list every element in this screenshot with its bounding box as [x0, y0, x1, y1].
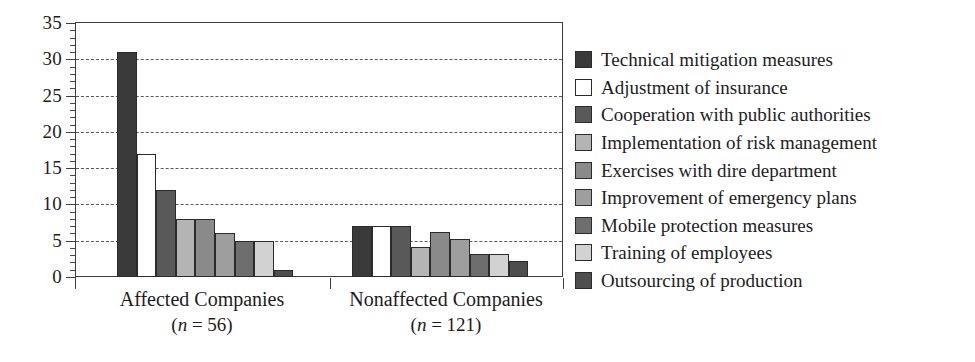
- y-tick-minor-26: [70, 88, 75, 89]
- legend-label: Mobile protection measures: [601, 216, 813, 235]
- y-tick-minor-11: [70, 197, 75, 198]
- y-tick-minor-12: [70, 190, 75, 191]
- y-tick-major-5: [66, 241, 75, 242]
- bars-layer: [76, 23, 562, 277]
- x-axis-label-text: Affected Companies: [120, 288, 285, 310]
- y-tick-minor-17: [70, 154, 75, 155]
- legend-label: Outsourcing of production: [601, 271, 803, 290]
- legend-item: Outsourcing of production: [575, 267, 970, 295]
- y-tick-minor-4: [70, 248, 75, 249]
- legend-item: Training of employees: [575, 239, 970, 267]
- legend-swatch-icon: [575, 272, 592, 289]
- y-tick-minor-18: [70, 146, 75, 147]
- legend-swatch-icon: [575, 244, 592, 261]
- y-tick-minor-28: [70, 74, 75, 75]
- bar-0-3: [176, 219, 196, 277]
- legend-swatch-icon: [575, 217, 592, 234]
- bar-0-8: [274, 270, 294, 277]
- y-tick-label-35: 35: [43, 13, 62, 32]
- y-tick-label-5: 5: [52, 231, 62, 250]
- y-tick-minor-32: [70, 45, 75, 46]
- y-tick-major-15: [66, 168, 75, 169]
- y-tick-minor-22: [70, 117, 75, 118]
- y-tick-label-0: 0: [52, 267, 62, 286]
- y-tick-minor-31: [70, 52, 75, 53]
- x-axis-label-text: Nonaffected Companies: [349, 288, 542, 310]
- y-tick-label-30: 30: [43, 49, 62, 68]
- bar-0-0: [117, 52, 137, 277]
- y-tick-minor-21: [70, 125, 75, 126]
- legend-label: Implementation of risk management: [601, 133, 877, 152]
- legend-item: Technical mitigation measures: [575, 46, 970, 74]
- legend-item: Cooperation with public authorities: [575, 101, 970, 129]
- y-tick-major-25: [66, 96, 75, 97]
- y-tick-label-15: 15: [43, 158, 62, 177]
- bar-1-1: [372, 226, 392, 277]
- y-tick-minor-19: [70, 139, 75, 140]
- legend-label: Technical mitigation measures: [601, 50, 833, 69]
- y-tick-major-35: [66, 23, 75, 24]
- y-tick-minor-23: [70, 110, 75, 111]
- legend-swatch-icon: [575, 51, 592, 68]
- bar-1-3: [411, 247, 431, 277]
- y-tick-minor-2: [70, 262, 75, 263]
- y-tick-minor-24: [70, 103, 75, 104]
- legend-swatch-icon: [575, 79, 592, 96]
- legend-label: Cooperation with public authorities: [601, 105, 871, 124]
- y-tick-minor-9: [70, 212, 75, 213]
- bar-0-5: [215, 233, 235, 277]
- x-axis-label-nonaffected: Nonaffected Companies(n = 121): [316, 286, 576, 338]
- bar-0-7: [254, 241, 274, 277]
- y-tick-minor-3: [70, 255, 75, 256]
- legend-item: Mobile protection measures: [575, 212, 970, 240]
- y-tick-minor-14: [70, 175, 75, 176]
- y-tick-label-25: 25: [43, 86, 62, 105]
- bar-1-2: [391, 226, 411, 277]
- bar-0-1: [137, 154, 157, 277]
- bar-1-5: [450, 239, 470, 277]
- y-tick-minor-33: [70, 38, 75, 39]
- legend-item: Adjustment of insurance: [575, 74, 970, 102]
- legend-label: Improvement of emergency plans: [601, 188, 857, 207]
- y-tick-minor-13: [70, 183, 75, 184]
- chart-figure: 05101520253035 Affected Companies(n = 56…: [0, 0, 975, 362]
- x-axis-label-affected: Affected Companies(n = 56): [72, 286, 332, 338]
- y-tick-minor-29: [70, 67, 75, 68]
- legend-item: Implementation of risk management: [575, 129, 970, 157]
- legend-swatch-icon: [575, 134, 592, 151]
- y-tick-minor-1: [70, 270, 75, 271]
- y-tick-minor-27: [70, 81, 75, 82]
- legend: Technical mitigation measuresAdjustment …: [575, 46, 970, 294]
- legend-label: Training of employees: [601, 243, 772, 262]
- y-tick-label-10: 10: [43, 194, 62, 213]
- y-tick-minor-34: [70, 30, 75, 31]
- bar-1-0: [352, 226, 372, 277]
- bar-0-4: [195, 219, 215, 277]
- bar-1-4: [430, 232, 450, 277]
- y-tick-minor-6: [70, 233, 75, 234]
- y-tick-major-30: [66, 59, 75, 60]
- legend-swatch-icon: [575, 106, 592, 123]
- y-tick-major-20: [66, 132, 75, 133]
- legend-item: Exercises with dire department: [575, 156, 970, 184]
- x-axis-sublabel-text: (n = 121): [316, 312, 576, 338]
- bar-1-8: [509, 261, 529, 277]
- y-tick-minor-7: [70, 226, 75, 227]
- y-tick-major-0: [66, 277, 75, 278]
- legend-swatch-icon: [575, 189, 592, 206]
- bar-0-2: [156, 190, 176, 277]
- x-axis-sublabel-text: (n = 56): [72, 312, 332, 338]
- legend-label: Adjustment of insurance: [601, 78, 788, 97]
- y-tick-minor-8: [70, 219, 75, 220]
- legend-label: Exercises with dire department: [601, 161, 837, 180]
- legend-swatch-icon: [575, 162, 592, 179]
- y-tick-major-10: [66, 204, 75, 205]
- bar-0-6: [235, 241, 255, 277]
- y-tick-minor-16: [70, 161, 75, 162]
- bar-1-7: [489, 254, 509, 277]
- bar-1-6: [470, 254, 490, 277]
- y-tick-label-20: 20: [43, 122, 62, 141]
- legend-item: Improvement of emergency plans: [575, 184, 970, 212]
